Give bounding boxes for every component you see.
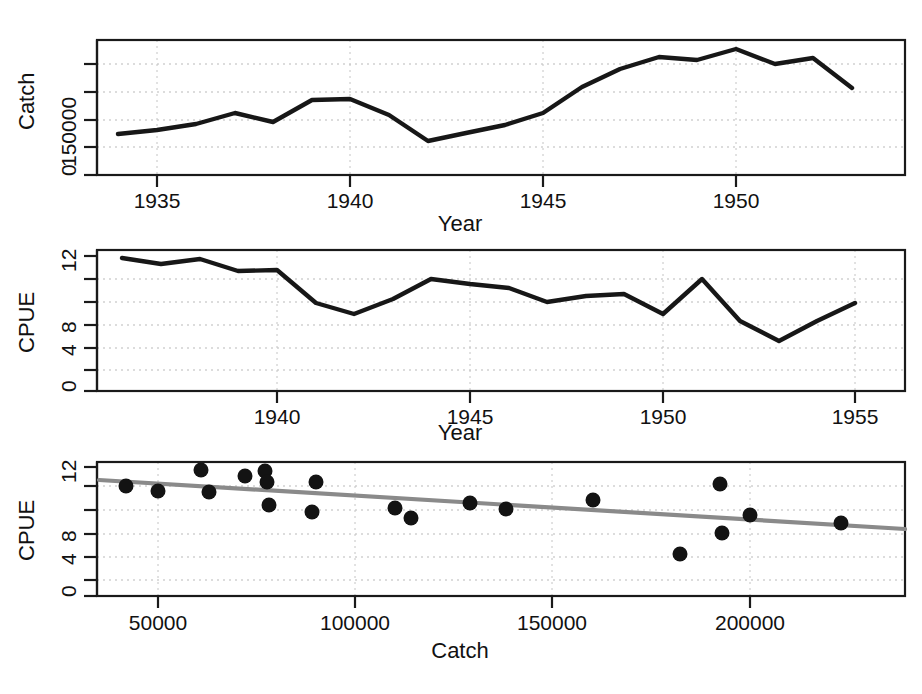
panel-cpue-vs-catch: 0 4 8 12 CPUE 50000 100000 150000 200000…	[0, 436, 922, 694]
panel-3-ytick-8: 8	[57, 530, 80, 542]
panel-2-gridlines-horizontal	[97, 279, 905, 370]
panel-2-ytick-8: 8	[57, 321, 80, 333]
panel-catch-vs-year: 0 150000 Catch 1935 1940 1945 1950 Year	[0, 0, 922, 232]
panel-cpue-vs-year: 0 4 8 12 CPUE 1940 1945 1950 1955 Year	[0, 228, 922, 440]
panel-2-cpue-series	[122, 258, 855, 341]
panel-2-ytick-4: 4	[57, 344, 80, 356]
panel-1-xtick-1940: 1940	[327, 189, 374, 212]
panel-2-ytick-0: 0	[57, 380, 80, 392]
panel-2-y-axis	[84, 250, 97, 391]
panel-3-x-axis	[97, 596, 905, 608]
panel-3-ytick-4: 4	[57, 553, 80, 565]
panel-2-xtick-1950: 1950	[640, 405, 687, 428]
panel-1-xtick-1950: 1950	[713, 189, 760, 212]
panel-3-ylabel: CPUE	[14, 500, 39, 561]
panel-1-svg: 0 150000 Catch 1935 1940 1945 1950 Year	[0, 0, 922, 232]
panel-2-xtick-1940: 1940	[254, 405, 301, 428]
panel-3-xlabel: Catch	[431, 638, 488, 663]
panel-1-x-axis	[97, 175, 905, 187]
panel-1-catch-series	[118, 49, 852, 141]
panel-1-xtick-1945: 1945	[520, 189, 567, 212]
panel-2-x-axis	[97, 391, 905, 403]
panel-1-ylabel: Catch	[14, 73, 39, 130]
panel-2-svg: 0 4 8 12 CPUE 1940 1945 1950 1955 Year	[0, 228, 922, 440]
panel-3-ytick-12: 12	[57, 460, 80, 483]
panel-1-ytick-150000: 150000	[57, 97, 80, 167]
panel-3-xtick-200000: 200000	[715, 611, 785, 634]
panel-1-xtick-1935: 1935	[134, 189, 181, 212]
figure-three-panel-fishery: 0 150000 Catch 1935 1940 1945 1950 Year	[0, 0, 922, 694]
panel-3-ytick-0: 0	[57, 585, 80, 597]
panel-2-ytick-12: 12	[57, 249, 80, 272]
panel-3-xtick-100000: 100000	[320, 611, 390, 634]
panel-3-gridlines-horizontal	[97, 486, 905, 580]
panel-1-y-axis	[84, 40, 97, 175]
panel-1-plot-frame	[97, 40, 905, 175]
panel-2-ylabel: CPUE	[14, 292, 39, 353]
panel-1-gridlines-horizontal	[97, 64, 905, 147]
panel-2-xtick-1955: 1955	[832, 405, 879, 428]
panel-3-y-axis	[84, 462, 97, 596]
panel-3-scatter-points	[119, 463, 849, 562]
panel-3-plot-frame	[97, 462, 905, 596]
panel-3-xtick-50000: 50000	[129, 611, 187, 634]
panel-3-xtick-150000: 150000	[517, 611, 587, 634]
panel-3-svg: 0 4 8 12 CPUE 50000 100000 150000 200000…	[0, 436, 922, 694]
